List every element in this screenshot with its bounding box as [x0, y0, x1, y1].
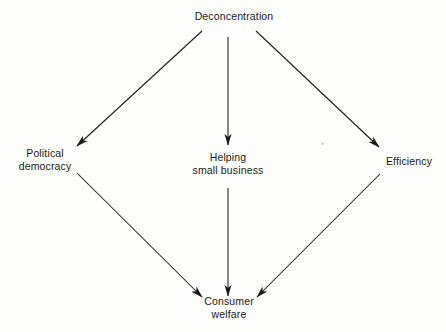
edge-deconcentration-to-efficiency: [256, 31, 379, 147]
edge-deconcentration-to-political-democracy: [77, 31, 202, 146]
node-political-democracy: Political democracy: [19, 147, 72, 173]
node-helping-small-business-line-2: small business: [193, 164, 264, 177]
node-helping-small-business: Helping small business: [193, 151, 264, 177]
diagram-canvas: Deconcentration Political democracy Help…: [0, 0, 446, 332]
node-consumer-welfare: Consumer welfare: [204, 295, 254, 321]
node-political-democracy-line-2: democracy: [19, 160, 72, 173]
node-deconcentration-line-1: Deconcentration: [195, 10, 274, 23]
node-political-democracy-line-1: Political: [19, 147, 72, 160]
node-efficiency-line-1: Efficiency: [386, 155, 432, 168]
node-deconcentration: Deconcentration: [195, 10, 274, 23]
node-efficiency: Efficiency: [386, 155, 432, 168]
scan-speck-artifact: [321, 142, 324, 145]
edge-efficiency-to-consumer-welfare: [257, 174, 380, 297]
node-consumer-welfare-line-1: Consumer: [204, 295, 254, 308]
edge-political-democracy-to-consumer-welfare: [77, 173, 202, 297]
node-consumer-welfare-line-2: welfare: [204, 308, 254, 321]
node-helping-small-business-line-1: Helping: [193, 151, 264, 164]
